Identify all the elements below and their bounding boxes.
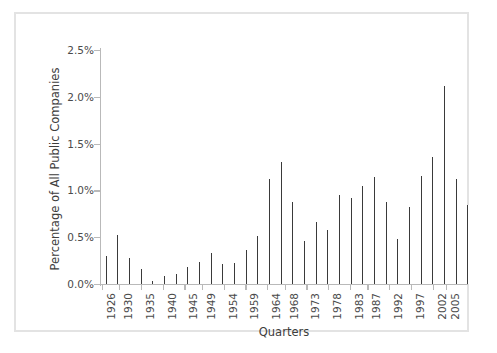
- x-tick-mark: [141, 285, 142, 290]
- chart-frame: 0.0%0.5%1.0%1.5%2.0%2.5% 192619301935194…: [14, 12, 469, 332]
- x-tick-mark: [367, 285, 368, 290]
- x-axis-title: Quarters: [101, 325, 467, 339]
- x-tick-mark: [433, 285, 434, 290]
- x-tick-label: 1968: [289, 293, 300, 320]
- x-tick-label: 1983: [354, 293, 365, 320]
- x-tick-label: 2002: [437, 293, 448, 320]
- x-tick-label: 1945: [188, 293, 199, 320]
- x-tick-mark: [202, 285, 203, 290]
- x-tick-mark: [245, 285, 246, 290]
- x-tick-label: 1987: [371, 293, 382, 320]
- x-tick-label: 1992: [393, 293, 404, 320]
- x-tick-label: 1997: [415, 293, 426, 320]
- x-tick-mark: [119, 285, 120, 290]
- x-tick-mark: [285, 285, 286, 290]
- x-tick-label: 1935: [145, 293, 156, 320]
- x-tick-mark: [389, 285, 390, 290]
- x-tick-mark: [267, 285, 268, 290]
- x-tick-mark: [184, 285, 185, 290]
- x-tick-mark: [306, 285, 307, 290]
- x-tick-label: 1949: [206, 293, 217, 320]
- x-tick-label: 1926: [106, 293, 117, 320]
- x-tick-mark: [446, 285, 447, 290]
- y-axis-title: Percentage of All Public Companies: [48, 54, 62, 284]
- x-tick-label: 2005: [450, 293, 461, 320]
- x-tick-mark: [163, 285, 164, 290]
- x-tick-mark: [102, 285, 103, 290]
- x-tick-label: 1973: [310, 293, 321, 320]
- x-tick-mark: [224, 285, 225, 290]
- y-tick-mark: [94, 190, 100, 191]
- x-tick-mark: [411, 285, 412, 290]
- y-tick-mark: [94, 144, 100, 145]
- plot-area: [101, 50, 467, 284]
- x-tick-label: 1954: [228, 293, 239, 320]
- y-tick-mark: [94, 50, 100, 51]
- x-tick-mark: [350, 285, 351, 290]
- x-tick-mark: [328, 285, 329, 290]
- x-tick-label: 1940: [167, 293, 178, 320]
- y-tick-mark: [94, 284, 100, 285]
- x-tick-label: 1930: [123, 293, 134, 320]
- bar: [467, 205, 468, 284]
- chart-figure: 0.0%0.5%1.0%1.5%2.0%2.5% 192619301935194…: [0, 0, 497, 353]
- bars-series: [101, 50, 467, 284]
- y-tick-mark: [94, 97, 100, 98]
- x-tick-label: 1978: [332, 293, 343, 320]
- x-tick-label: 1959: [249, 293, 260, 320]
- x-tick-label: 1964: [271, 293, 282, 320]
- y-tick-mark: [94, 237, 100, 238]
